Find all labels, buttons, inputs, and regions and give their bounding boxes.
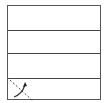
dashed-diagonal-line xyxy=(10,80,33,101)
arrowhead-icon xyxy=(23,82,27,87)
bottom-cell-glyph xyxy=(0,0,105,103)
